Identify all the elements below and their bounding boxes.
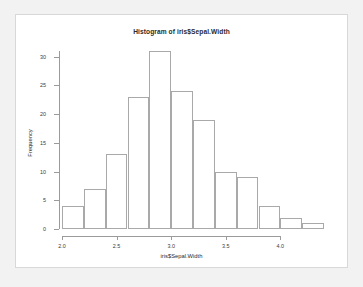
histogram-bar xyxy=(302,223,324,229)
histogram-bar xyxy=(237,177,259,229)
y-axis-tick-label: 15 xyxy=(32,140,46,146)
histogram-bar xyxy=(259,206,281,229)
x-axis-title: iris$Sepal.Width xyxy=(16,253,347,259)
x-axis-tick-label: 4.0 xyxy=(277,243,285,249)
y-axis-tick xyxy=(54,200,59,201)
chart-title: Histogram of iris$Sepal.Width xyxy=(16,28,347,35)
x-axis-tick-label: 3.0 xyxy=(167,243,175,249)
histogram-bar xyxy=(215,172,237,229)
y-axis-tick xyxy=(54,172,59,173)
histogram-bars xyxy=(62,51,324,229)
y-axis-tick xyxy=(54,85,59,86)
y-axis-tick xyxy=(54,57,59,58)
histogram-bar xyxy=(193,120,215,229)
x-axis-tick xyxy=(280,236,281,240)
histogram-bar xyxy=(149,51,171,229)
y-axis-line xyxy=(59,51,60,229)
y-axis-tick-label: 5 xyxy=(32,197,46,203)
y-axis-tick xyxy=(54,114,59,115)
plot-area xyxy=(62,51,324,229)
y-axis-tick-label: 10 xyxy=(32,169,46,175)
x-axis-tick xyxy=(117,236,118,240)
x-axis-tick-label: 2.5 xyxy=(113,243,121,249)
x-axis-tick xyxy=(171,236,172,240)
histogram-bar xyxy=(171,91,193,229)
y-axis-tick-label: 0 xyxy=(32,226,46,232)
x-axis-tick-label: 3.5 xyxy=(222,243,230,249)
x-axis-tick xyxy=(226,236,227,240)
histogram-bar xyxy=(84,189,106,229)
histogram-bar xyxy=(280,218,302,229)
x-axis-tick-label: 2.0 xyxy=(58,243,66,249)
y-axis-tick-label: 20 xyxy=(32,111,46,117)
y-axis-tick xyxy=(54,143,59,144)
plot-card: Histogram of iris$Sepal.Width Frequency … xyxy=(15,14,348,268)
y-axis-tick xyxy=(54,229,59,230)
histogram-bar xyxy=(106,154,128,229)
histogram-bar xyxy=(128,97,150,229)
x-axis-tick xyxy=(62,236,63,240)
y-axis-tick-label: 25 xyxy=(32,82,46,88)
y-axis-tick-label: 30 xyxy=(32,54,46,60)
histogram-bar xyxy=(62,206,84,229)
